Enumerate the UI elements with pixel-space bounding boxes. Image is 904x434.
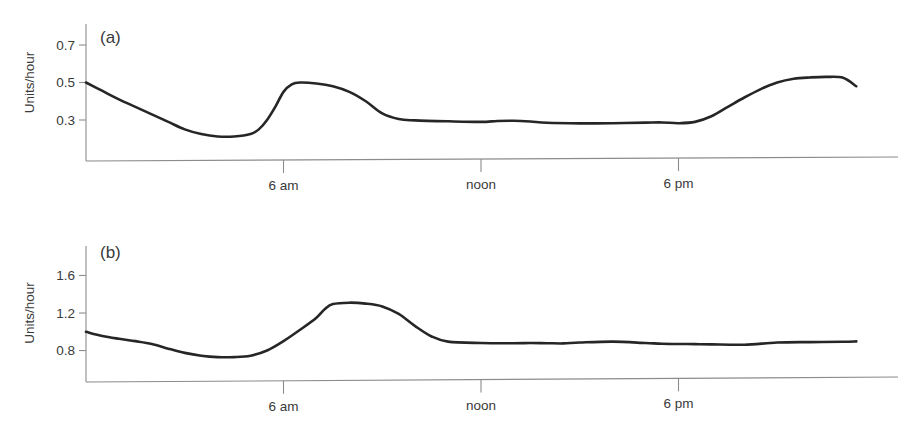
x-axis-line xyxy=(86,157,898,161)
panel-b-svg: 0.81.21.66 amnoon6 pmUnits/hour(b) xyxy=(0,214,904,434)
figure-container: 0.30.50.76 amnoon6 pmUnits/hour(a) 0.81.… xyxy=(0,0,904,434)
x-tick-label: 6 pm xyxy=(663,396,693,411)
x-tick-label: noon xyxy=(466,177,496,192)
chart-panel-b: 0.81.21.66 amnoon6 pmUnits/hour(b) xyxy=(0,214,904,434)
panel-label: (b) xyxy=(100,243,121,262)
y-tick-label: 0.5 xyxy=(56,75,75,90)
y-axis-title: Units/hour xyxy=(22,51,37,113)
data-series-line xyxy=(86,303,856,358)
panel-label: (a) xyxy=(100,28,121,47)
y-axis-title: Units/hour xyxy=(22,282,37,344)
y-tick-label: 0.3 xyxy=(56,113,75,128)
data-series-line xyxy=(86,77,856,137)
panel-a-svg: 0.30.50.76 amnoon6 pmUnits/hour(a) xyxy=(0,0,904,214)
x-tick-label: 6 am xyxy=(268,178,298,193)
chart-panel-a: 0.30.50.76 amnoon6 pmUnits/hour(a) xyxy=(0,0,904,214)
x-axis-line xyxy=(86,377,898,382)
x-tick-label: noon xyxy=(466,398,496,413)
x-tick-label: 6 pm xyxy=(663,176,693,191)
y-tick-label: 0.7 xyxy=(56,38,75,53)
y-tick-label: 1.6 xyxy=(56,268,75,283)
y-tick-label: 0.8 xyxy=(56,343,75,358)
x-tick-label: 6 am xyxy=(268,399,298,414)
y-tick-label: 1.2 xyxy=(56,306,75,321)
